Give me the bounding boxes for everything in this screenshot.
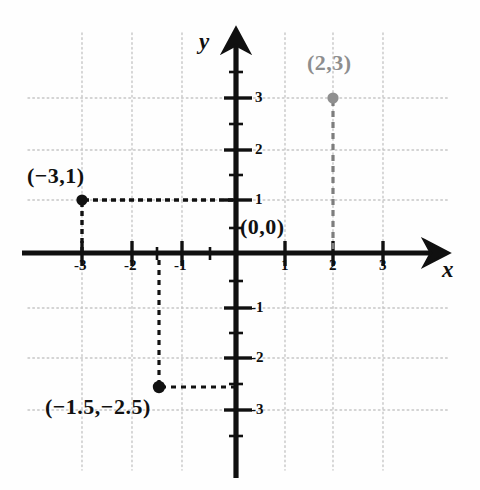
tick-label-x-pos3: 3 bbox=[379, 258, 387, 273]
point-neg3-1 bbox=[76, 194, 87, 205]
tick-label-y-pos1: 1 bbox=[255, 192, 263, 207]
plotted-points bbox=[76, 92, 338, 393]
tick-label-x-neg3: -3 bbox=[74, 258, 87, 273]
point-label-neg3-1: (−3,1) bbox=[27, 165, 85, 187]
point-2-3 bbox=[327, 92, 338, 103]
tick-label-y-pos2: 2 bbox=[255, 142, 263, 157]
worksheet-page: -3 -2 -1 1 2 3 3 2 1 -1 -2 -3 (2,3) (−3,… bbox=[0, 0, 480, 490]
tick-label-y-neg3: -3 bbox=[251, 402, 264, 417]
tick-label-x-pos2: 2 bbox=[329, 258, 337, 273]
point-label-2-3: (2,3) bbox=[307, 52, 352, 74]
point-leader-lines bbox=[82, 100, 333, 387]
tick-label-y-neg2: -2 bbox=[251, 350, 264, 365]
tick-label-x-neg1: -1 bbox=[174, 258, 187, 273]
point-label-origin: (0,0) bbox=[240, 216, 285, 238]
point-neg15-neg25 bbox=[153, 381, 165, 393]
tick-label-y-pos3: 3 bbox=[255, 90, 263, 105]
x-axis-label: x bbox=[442, 258, 454, 281]
tick-label-x-pos1: 1 bbox=[281, 258, 289, 273]
point-label-neg15-neg25: (−1.5,−2.5) bbox=[45, 396, 151, 418]
tick-label-y-neg1: -1 bbox=[251, 300, 264, 315]
y-axis-label: y bbox=[199, 30, 209, 53]
tick-label-x-neg2: -2 bbox=[124, 258, 137, 273]
